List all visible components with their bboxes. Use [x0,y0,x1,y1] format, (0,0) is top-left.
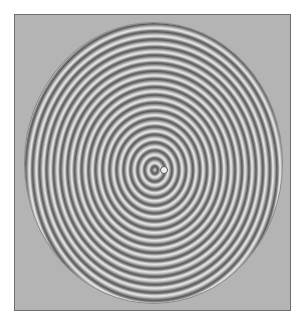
rings-center [160,166,168,174]
figure-frame [14,14,291,311]
concentric-rings [25,23,282,303]
